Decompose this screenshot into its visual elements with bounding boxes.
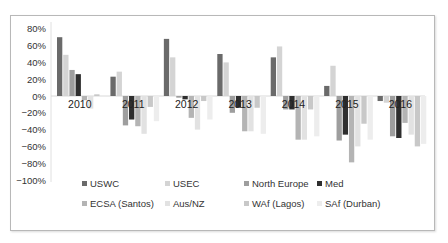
bar-usec-2013 xyxy=(223,62,228,96)
legend-swatch xyxy=(165,181,170,186)
legend-swatch xyxy=(82,181,87,186)
y-tick-label: 20% xyxy=(27,74,47,85)
y-tick-label: −20% xyxy=(21,107,46,118)
y-tick-label: 60% xyxy=(27,40,47,51)
bar-saf-durban--2012 xyxy=(207,96,212,120)
bar-usec-2015 xyxy=(330,66,335,96)
y-tick-label: −100% xyxy=(16,175,46,186)
bar-waf-lagos--2012 xyxy=(201,96,206,101)
bar-usec-2011 xyxy=(117,72,122,96)
bar-usec-2010 xyxy=(63,55,68,96)
bar-waf-lagos--2015 xyxy=(361,96,366,124)
bar-uswc-2013 xyxy=(217,54,222,96)
bar-saf-durban--2014 xyxy=(314,96,319,136)
bar-usec-2012 xyxy=(170,57,175,96)
bar-uswc-2016 xyxy=(378,96,383,101)
y-tick-label: 0% xyxy=(32,91,46,102)
x-category-label: 2015 xyxy=(335,98,359,110)
bar-uswc-2015 xyxy=(324,86,329,96)
y-tick-label: 80% xyxy=(27,23,47,34)
legend-swatch xyxy=(317,201,322,206)
legend-label: USWC xyxy=(90,178,119,189)
legend-swatch xyxy=(82,201,87,206)
bar-waf-lagos--2014 xyxy=(308,96,313,109)
bar-saf-durban--2013 xyxy=(261,96,266,134)
bar-waf-lagos--2016 xyxy=(415,96,420,146)
y-tick-label: −40% xyxy=(21,124,46,135)
legend-swatch xyxy=(244,201,249,206)
bar-chart: 80%60%40%20%0%−20%−40%−60%−80%−100%20102… xyxy=(0,0,448,243)
legend-label: USEC xyxy=(173,178,200,189)
bar-uswc-2011 xyxy=(110,77,115,96)
legend-swatch xyxy=(165,201,170,206)
legend-label: Med xyxy=(325,178,343,189)
y-tick-label: −80% xyxy=(21,158,46,169)
bar-waf-lagos--2013 xyxy=(254,96,259,108)
bar-north-europe-2010 xyxy=(69,70,74,96)
x-category-label: 2011 xyxy=(122,98,145,110)
bar-saf-durban--2015 xyxy=(368,96,373,140)
legend-label: North Europe xyxy=(252,178,309,189)
legend-label: WAf (Lagos) xyxy=(252,198,304,209)
bar-saf-durban--2016 xyxy=(421,96,426,144)
bar-saf-durban--2011 xyxy=(154,96,159,121)
x-category-label: 2010 xyxy=(68,98,92,110)
bar-uswc-2012 xyxy=(164,39,169,96)
bar-uswc-2010 xyxy=(57,37,62,96)
legend-label: Aus/NZ xyxy=(173,198,205,209)
x-category-label: 2012 xyxy=(175,98,199,110)
bar-waf-lagos--2011 xyxy=(148,96,153,107)
x-category-label: 2013 xyxy=(228,98,252,110)
bar-waf-lagos--2010 xyxy=(94,94,99,96)
x-category-label: 2014 xyxy=(282,98,306,110)
y-tick-label: 40% xyxy=(27,57,47,68)
legend-label: ECSA (Santos) xyxy=(90,198,154,209)
y-tick-label: −60% xyxy=(21,141,46,152)
legend-swatch xyxy=(244,181,249,186)
bar-usec-2014 xyxy=(277,46,282,96)
legend-swatch xyxy=(317,181,322,186)
legend-label: SAf (Durban) xyxy=(325,198,380,209)
bar-saf-durban--2010 xyxy=(100,96,105,97)
bar-uswc-2014 xyxy=(271,57,276,96)
bar-med-2010 xyxy=(76,74,81,96)
x-category-label: 2016 xyxy=(389,98,413,110)
